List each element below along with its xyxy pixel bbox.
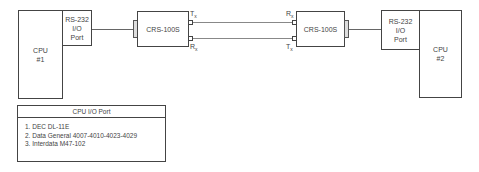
cpu-1-box: CPU #1	[18, 10, 63, 99]
list-item: 3. Interdata M47-102	[25, 140, 165, 149]
rs232-right-line3: Port	[389, 35, 413, 44]
table-title: CPU I/O Port	[18, 106, 165, 118]
rx-label-right: Rx	[286, 10, 294, 20]
cpu-2-number: #2	[433, 54, 448, 63]
cpu-1-label: CPU	[33, 46, 48, 55]
rs232-port-right: RS-232 I/O Port	[381, 10, 420, 50]
rs232-left-line1: RS-232	[65, 15, 89, 24]
rs232-right-line2: I/O	[389, 26, 413, 35]
list-item: 1. DEC DL-11E	[25, 123, 165, 132]
rs232-left-line2: I/O	[65, 24, 89, 33]
crs-left-label: CRS-100S	[146, 25, 179, 34]
cable-left	[92, 29, 133, 30]
cable-right	[349, 29, 381, 30]
cpu-2-label: CPU	[433, 45, 448, 54]
crs-100s-left: CRS-100S	[137, 11, 189, 47]
fiber-line-2	[193, 38, 292, 39]
rs232-left-line3: Port	[65, 33, 89, 42]
rs232-right-line1: RS-232	[389, 17, 413, 26]
rs232-port-left: RS-232 I/O Port	[62, 10, 92, 46]
crs-right-label: CRS-100S	[304, 25, 337, 34]
cpu-2-box: CPU #2	[419, 10, 462, 98]
crs-100s-right: CRS-100S	[296, 11, 345, 47]
list-item: 2. Data General 4007-4010-4023-4029	[25, 132, 165, 141]
cpu-1-number: #1	[33, 55, 48, 64]
fiber-line-1	[193, 22, 292, 23]
rx-label-left: Rx	[190, 43, 198, 53]
table-list: 1. DEC DL-11E 2. Data General 4007-4010-…	[18, 118, 165, 149]
tx-label-left: Tx	[190, 10, 197, 20]
tx-label-right: Tx	[286, 43, 293, 53]
cpu-io-port-table: CPU I/O Port 1. DEC DL-11E 2. Data Gener…	[17, 105, 166, 162]
